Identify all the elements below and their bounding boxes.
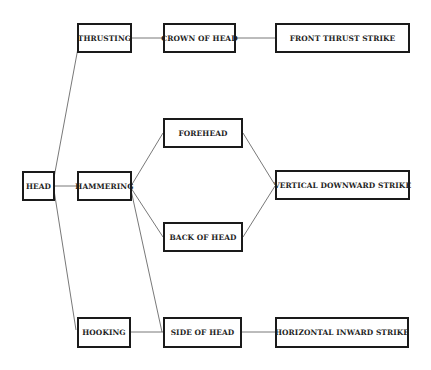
node-crown-of-head: CROWN OF HEAD: [163, 23, 236, 53]
node-front-thrust-strike: FRONT THRUST STRIKE: [275, 23, 410, 53]
edge-back-vertical: [243, 186, 275, 237]
diagram-canvas: HEAD THRUSTING HAMMERING HOOKING CROWN O…: [0, 0, 431, 370]
node-thrusting: THRUSTING: [77, 23, 132, 53]
node-hammering: HAMMERING: [77, 171, 132, 201]
node-horizontal-inward-strike: HORIZONTAL INWARD STRIKE: [275, 317, 409, 348]
edge-hammering-forehead: [131, 133, 163, 186]
node-head: HEAD: [22, 171, 55, 201]
node-hooking: HOOKING: [77, 317, 131, 348]
node-back-of-head: BACK OF HEAD: [163, 222, 243, 252]
node-forehead: FOREHEAD: [163, 118, 243, 148]
edge-head-thrusting: [53, 48, 78, 183]
edge-forehead-vertical: [243, 133, 275, 185]
edge-head-hooking: [54, 190, 76, 330]
node-vertical-downward-strike: VERTICAL DOWNWARD STRIKE: [275, 170, 410, 200]
node-side-of-head: SIDE OF HEAD: [163, 317, 242, 348]
